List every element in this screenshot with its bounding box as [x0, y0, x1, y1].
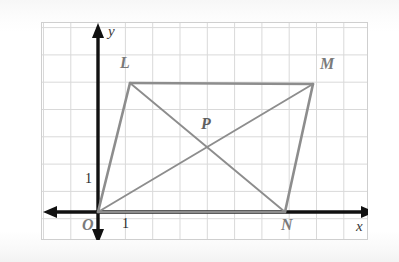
- segment-LM: [130, 83, 313, 84]
- y-axis-arrow-up: [92, 23, 104, 38]
- vertex-label-L: L: [120, 55, 130, 71]
- vertex-label-P: P: [201, 116, 211, 132]
- x-axis-arrow-right: [361, 206, 368, 218]
- y-unit-label: 1: [85, 172, 92, 186]
- x-unit-label: 1: [122, 217, 129, 231]
- parallelogram-diagonals: [98, 83, 313, 212]
- y-axis-label: y: [108, 24, 115, 39]
- vertex-label-N: N: [281, 217, 293, 233]
- vertex-label-O: O: [82, 217, 94, 233]
- figure-stage: L M N O P 1 1 y x: [0, 0, 399, 262]
- x-axis-arrow-left: [43, 206, 57, 218]
- vertex-label-M: M: [320, 56, 334, 72]
- x-axis-label: x: [356, 219, 363, 234]
- diagonal-OM: [98, 84, 313, 212]
